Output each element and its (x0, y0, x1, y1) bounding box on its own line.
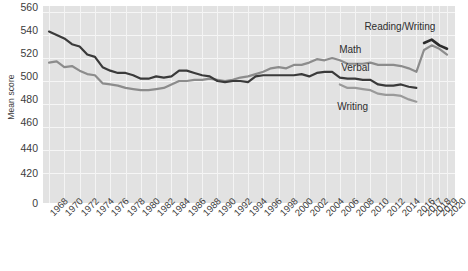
x-axis-tick-labels: 1968197019721974197619781980198219841986… (0, 0, 459, 271)
sat-mean-score-line-chart: Mean score 560 540 520 500 480 460 440 4… (0, 0, 459, 271)
